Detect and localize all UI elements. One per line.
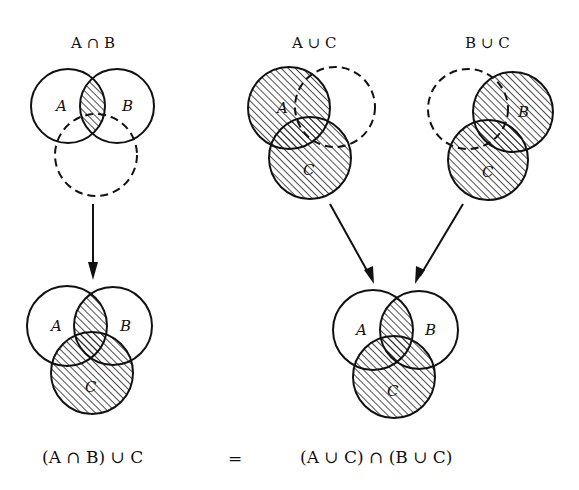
panel-b-union-c: B ∪ C B C xyxy=(428,34,553,200)
arrows xyxy=(88,204,463,284)
label-b: B xyxy=(121,97,133,115)
label-c: C xyxy=(85,378,97,396)
arrowhead-icon xyxy=(88,262,98,280)
equals-sign: = xyxy=(228,448,242,468)
panel-result-left: A B C xyxy=(27,286,152,414)
panel-a-union-c: A ∪ C A C xyxy=(248,34,375,199)
label-a: A xyxy=(54,97,67,115)
equation-right: (A ∪ C) ∩ (B ∪ C) xyxy=(300,447,452,467)
panel-a-intersect-b: A ∩ B A B xyxy=(31,34,154,196)
label-b: B xyxy=(119,317,131,335)
label-a: A xyxy=(275,99,288,117)
equation: (A ∩ B) ∪ C = (A ∪ C) ∩ (B ∪ C) xyxy=(42,447,452,468)
label-c: C xyxy=(482,163,494,181)
panel-result-right: A B C xyxy=(333,290,458,418)
venn-distributive-law-figure: A ∩ B A B A ∪ C A C B ∪ C B C xyxy=(0,0,579,490)
label-b: B xyxy=(517,103,529,121)
label-c: C xyxy=(387,382,399,400)
panel-title-b-union-c: B ∪ C xyxy=(465,34,510,52)
equation-left: (A ∩ B) ∪ C xyxy=(42,447,143,467)
label-c: C xyxy=(303,161,315,179)
arrow-a-union-c-to-result xyxy=(330,204,370,276)
label-a: A xyxy=(49,317,62,335)
label-b: B xyxy=(424,321,436,339)
label-a: A xyxy=(354,321,367,339)
panel-title-a-intersect-b: A ∩ B xyxy=(70,34,115,52)
panel-title-a-union-c: A ∪ C xyxy=(291,34,336,52)
arrow-b-union-c-to-result xyxy=(420,204,463,276)
